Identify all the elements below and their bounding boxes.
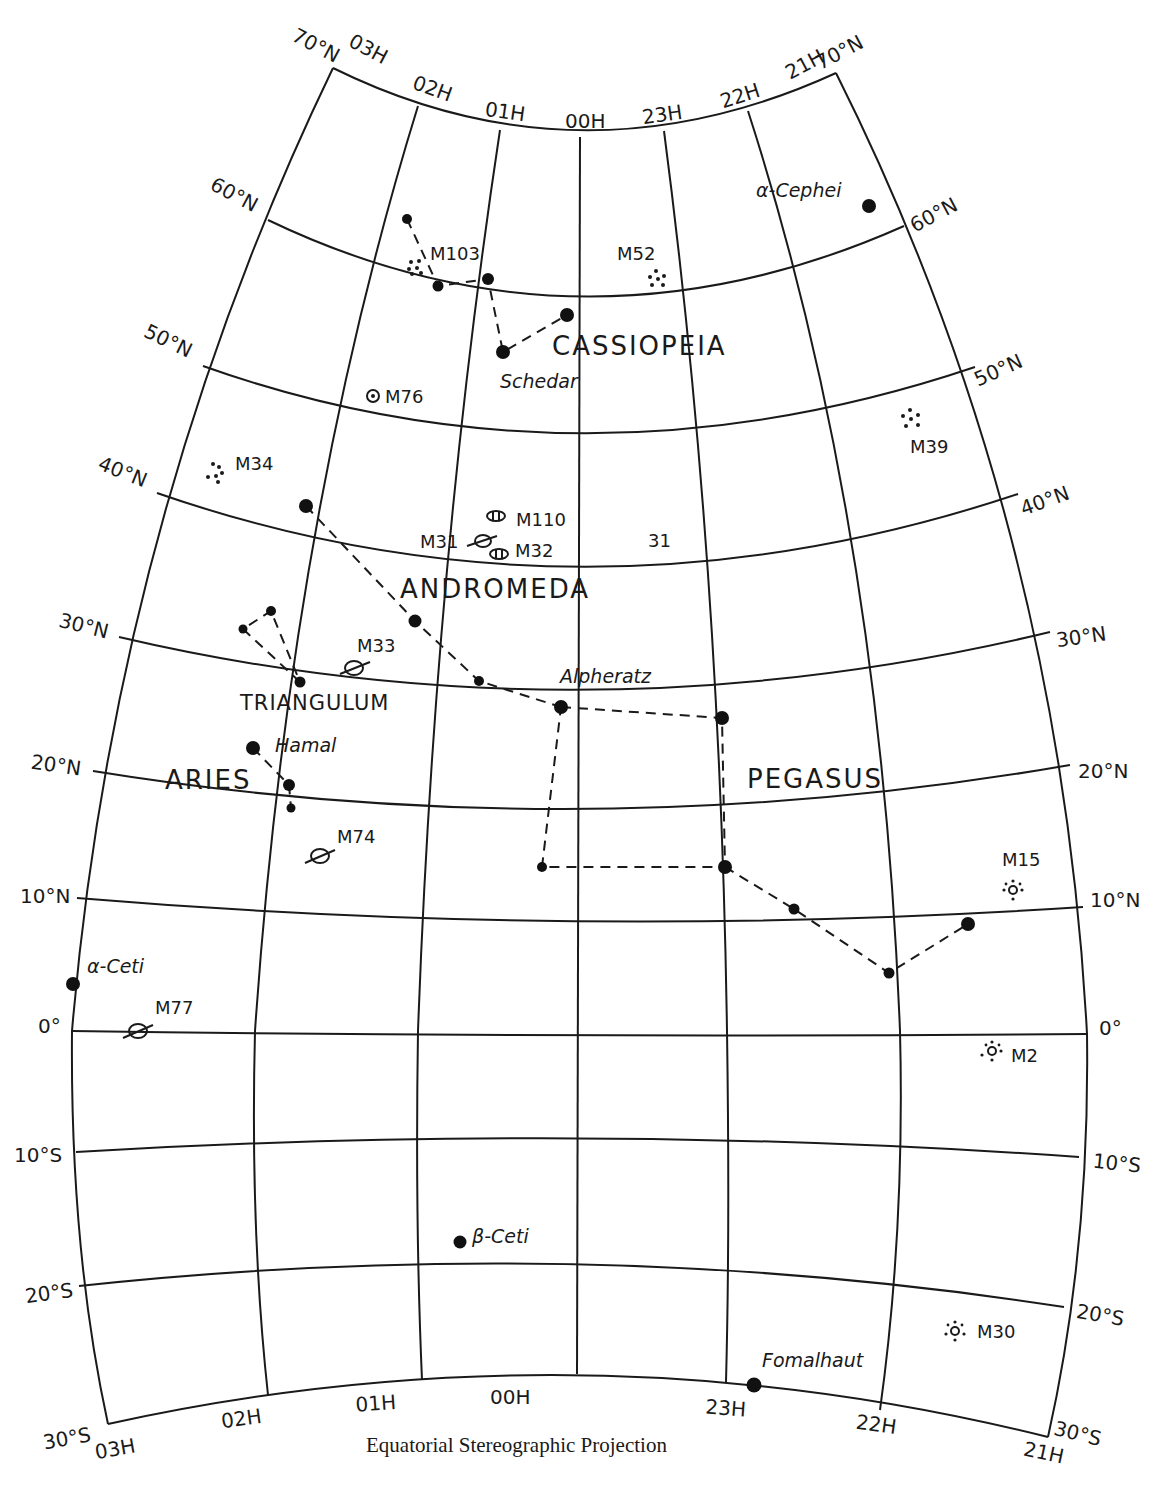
label-bottom-00h: 00H: [490, 1385, 531, 1409]
deep-sky-objects: [123, 259, 1024, 1342]
star-pegasus-theta: [884, 968, 895, 979]
galaxy-icon-m110: [487, 511, 505, 521]
label-right-40n: 40°N: [1017, 481, 1073, 521]
label-alpha-cephei: α-Cephei: [756, 179, 842, 201]
star-aries-beta: [283, 779, 295, 791]
label-m110: M110: [516, 509, 566, 530]
label-bottom-21h: 21H: [1021, 1437, 1066, 1469]
label-m34: M34: [235, 453, 273, 474]
star-triangulum-gamma: [239, 625, 248, 634]
star-triangulum-beta: [266, 606, 276, 616]
globular-cluster-icon-m15: [1002, 879, 1023, 900]
label-right-50n: 50°N: [970, 349, 1026, 391]
dec-20s-line: [79, 1263, 1064, 1307]
label-aries: ARIES: [165, 765, 251, 795]
label-right-10s: 10°S: [1092, 1149, 1142, 1178]
galaxy-icon-m33: [340, 661, 370, 675]
label-bottom-30s-left: 30°S: [41, 1422, 93, 1454]
cassiopeia-lines: [407, 219, 567, 352]
ra-01h-line: [417, 130, 500, 1380]
star-markab: [718, 860, 732, 874]
label-bottom-02h: 02H: [220, 1404, 263, 1433]
star-alpheratz: [554, 700, 568, 714]
label-m103: M103: [430, 243, 480, 264]
label-top-22h: 22H: [717, 78, 763, 113]
label-top-02h: 02H: [409, 70, 455, 106]
label-m74: M74: [337, 826, 375, 847]
label-left-40n: 40°N: [95, 451, 151, 492]
label-right-20s: 20°S: [1075, 1299, 1127, 1331]
dec-50n-line: [203, 366, 975, 433]
messier-labels: M103 M52 M76 M39 M34 M110 M31 M32 31 M33…: [155, 243, 1040, 1342]
aries-lines: [253, 748, 291, 808]
label-m2: M2: [1011, 1045, 1038, 1066]
planetary-nebula-icon-m76: [367, 390, 379, 402]
open-cluster-icon-m34: [206, 462, 224, 484]
galaxy-icon-m74: [305, 849, 335, 863]
star-cassiopeia-delta: [433, 281, 444, 292]
star-enif: [961, 917, 975, 931]
label-bottom-23h: 23H: [705, 1395, 747, 1422]
label-left-60n: 60°N: [206, 172, 262, 217]
galaxy-icon-m32: [490, 549, 508, 559]
label-top-03h: 03H: [345, 29, 392, 69]
label-left-10s: 10°S: [14, 1143, 62, 1167]
label-hamal: Hamal: [275, 734, 337, 756]
constellation-names: CASSIOPEIA ANDROMEDA TRIANGULUM ARIES PE…: [165, 331, 883, 795]
star-algenib: [537, 862, 547, 872]
dec-0-line: [72, 1031, 1087, 1035]
label-left-20n: 20°N: [30, 750, 83, 781]
label-m52: M52: [617, 243, 655, 264]
label-schedar: Schedar: [500, 370, 579, 392]
open-cluster-icon-m39: [901, 408, 920, 428]
star-fomalhaut: [747, 1378, 762, 1393]
star-schedar: [496, 345, 510, 359]
star-aries-gamma: [287, 804, 296, 813]
label-top-23h: 23H: [641, 100, 684, 129]
label-beta-ceti: β-Ceti: [471, 1225, 529, 1247]
label-cassiopeia: CASSIOPEIA: [552, 331, 727, 361]
dec-labels-left: 60°N 50°N 40°N 30°N 20°N 10°N 0° 10°S 20…: [14, 172, 262, 1308]
star-chart: 70°N 03H 02H 01H 00H 23H 22H 21H 70°N 60…: [0, 0, 1175, 1489]
label-m77: M77: [155, 997, 193, 1018]
label-m15: M15: [1002, 849, 1040, 870]
triangulum-lines: [243, 611, 300, 682]
label-top-00h: 00H: [565, 109, 606, 133]
label-right-30n: 30°N: [1055, 621, 1108, 652]
star-cassiopeia-gamma: [482, 273, 494, 285]
label-pegasus: PEGASUS: [747, 764, 883, 794]
label-m39: M39: [910, 436, 948, 457]
label-m76: M76: [385, 386, 423, 407]
star-hamal: [246, 741, 260, 755]
pegasus-square: [542, 707, 725, 867]
label-m30: M30: [977, 1321, 1015, 1342]
label-right-10n: 10°N: [1090, 888, 1140, 912]
ra-23h-line: [664, 131, 728, 1382]
label-right-0: 0°: [1099, 1016, 1122, 1040]
globular-cluster-icon-m30: [944, 1320, 965, 1341]
label-andromeda: ANDROMEDA: [400, 574, 590, 604]
label-alpheratz: Alpheratz: [558, 665, 652, 687]
label-triangulum: TRIANGULUM: [239, 691, 389, 715]
star-triangulum-alpha: [295, 677, 306, 688]
label-m33: M33: [357, 635, 395, 656]
star-cassiopeia-beta: [560, 308, 574, 322]
star-alpha-cephei: [862, 199, 876, 213]
ra-22h-line: [748, 111, 901, 1410]
star-scheat: [715, 711, 729, 725]
label-fomalhaut: Fomalhaut: [762, 1349, 865, 1371]
label-note-31: 31: [648, 530, 671, 551]
ra-21h-line: [836, 73, 1087, 1437]
label-left-30n: 30°N: [56, 608, 111, 643]
label-top-70n-right: 70°N: [812, 30, 868, 75]
chart-caption: Equatorial Stereographic Projection: [366, 1433, 667, 1457]
open-cluster-icon-m52: [648, 269, 666, 287]
label-top-70n-left: 70°N: [288, 23, 344, 68]
label-right-60n: 60°N: [906, 192, 962, 237]
label-alpha-ceti: α-Ceti: [87, 955, 145, 977]
star-alpha-ceti: [66, 977, 80, 991]
label-left-20s: 20°S: [24, 1278, 75, 1308]
label-left-0: 0°: [38, 1014, 61, 1038]
globular-cluster-icon-m2: [980, 1040, 1002, 1061]
label-left-50n: 50°N: [140, 319, 196, 363]
